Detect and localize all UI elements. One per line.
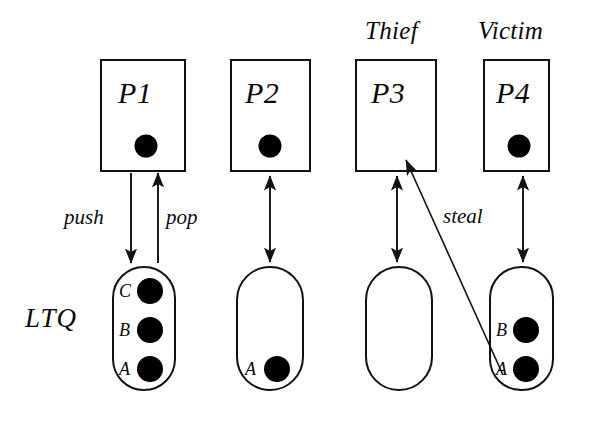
queue-capsule-p3: [366, 267, 432, 390]
queue-item-label-p1-0: C: [119, 282, 131, 300]
role-label-thief: Thief: [365, 18, 418, 43]
process-label-p1: P1: [118, 78, 152, 108]
queue-item-label-p4-0: B: [496, 321, 507, 339]
queue-label-ltq: LTQ: [25, 305, 77, 332]
queue-item-label-p2-0: A: [245, 360, 256, 378]
queue-item-label-p4-1: A: [496, 360, 507, 378]
queue-dot-p2-a: [264, 356, 290, 382]
task-dot-p2: [259, 135, 282, 158]
edge-label-push: push: [64, 207, 104, 228]
process-label-p4: P4: [496, 78, 530, 108]
process-label-p3: P3: [371, 78, 405, 108]
queue-dot-p1-c: [137, 278, 163, 304]
queue-dot-p1-b: [137, 317, 163, 343]
work-stealing-diagram: Thief Victim P1 P2 P3 P4 push pop steal …: [0, 0, 591, 424]
queue-dot-p4-a: [513, 356, 539, 382]
role-label-victim: Victim: [478, 18, 543, 43]
queue-dot-p1-a: [137, 356, 163, 382]
edge-label-pop: pop: [166, 207, 198, 228]
process-label-p2: P2: [245, 78, 279, 108]
queue-item-label-p1-1: B: [119, 321, 130, 339]
edge-label-steal: steal: [443, 206, 483, 227]
queue-dot-p4-b: [513, 317, 539, 343]
task-dot-p1: [135, 135, 158, 158]
queue-item-label-p1-2: A: [119, 360, 130, 378]
task-dot-p4: [508, 135, 531, 158]
